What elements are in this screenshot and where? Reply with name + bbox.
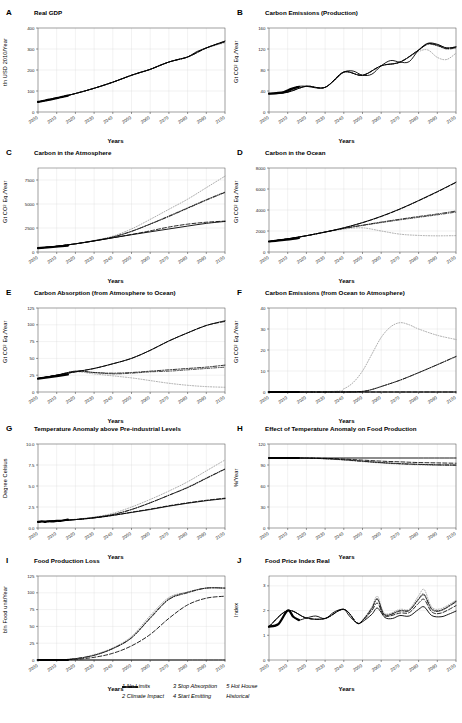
- svg-text:2060: 2060: [371, 531, 382, 541]
- svg-text:2070: 2070: [389, 395, 400, 405]
- svg-text:80: 80: [261, 68, 266, 73]
- svg-text:2100: 2100: [446, 663, 457, 673]
- panel-g: GTemperature Anomaly above Pre-industria…: [0, 424, 231, 563]
- legend-item-stop-absorption: 3 Stop Absorption: [173, 683, 217, 689]
- svg-text:2.5: 2.5: [28, 505, 35, 510]
- panel-b: BCarbon Emissions (Production)Gt CO2 Eq.…: [231, 8, 462, 147]
- x-axis-label-c: Years: [0, 278, 231, 284]
- svg-text:30: 30: [261, 505, 266, 510]
- svg-text:2080: 2080: [408, 395, 419, 405]
- svg-text:2040: 2040: [333, 115, 344, 125]
- svg-text:2000: 2000: [259, 531, 270, 541]
- svg-text:2090: 2090: [196, 115, 207, 125]
- svg-text:2000: 2000: [259, 255, 270, 265]
- svg-text:2030: 2030: [84, 395, 95, 405]
- svg-text:2090: 2090: [196, 395, 207, 405]
- plot-a: 0100200300400200020102020203020402050206…: [0, 8, 231, 147]
- svg-text:2020: 2020: [296, 663, 307, 673]
- svg-text:2070: 2070: [158, 663, 169, 673]
- svg-text:2070: 2070: [389, 663, 400, 673]
- figure-legend: 1 No Limits3 Stop Absorption5 Hot House2…: [0, 683, 462, 719]
- svg-text:2000: 2000: [256, 229, 266, 234]
- svg-text:2030: 2030: [315, 531, 326, 541]
- svg-text:50: 50: [30, 624, 35, 629]
- svg-text:2500: 2500: [25, 226, 35, 231]
- svg-text:160: 160: [258, 26, 266, 31]
- svg-text:2070: 2070: [389, 255, 400, 265]
- plot-g: 0.02.55.07.510.0200020102020203020402050…: [0, 424, 231, 563]
- plot-e: 0255075100125200020102020203020402050206…: [0, 288, 231, 427]
- legend-grid: 1 No Limits3 Stop Absorption5 Hot House2…: [122, 683, 257, 699]
- svg-text:2070: 2070: [158, 395, 169, 405]
- svg-text:2080: 2080: [408, 531, 419, 541]
- plot-i: 0255075100125200020102020203020402050206…: [0, 556, 231, 695]
- svg-text:100: 100: [27, 590, 35, 595]
- svg-text:2040: 2040: [102, 115, 113, 125]
- svg-text:7.5: 7.5: [28, 463, 35, 468]
- svg-text:2050: 2050: [121, 663, 132, 673]
- svg-text:2000: 2000: [28, 663, 39, 673]
- legend-label: 5 Hot House: [226, 683, 257, 689]
- svg-text:3: 3: [263, 583, 266, 588]
- svg-text:0: 0: [32, 250, 35, 255]
- svg-text:2040: 2040: [102, 531, 113, 541]
- svg-text:2050: 2050: [352, 663, 363, 673]
- panel-i: IFood Production Lossbln Food unit/Year0…: [0, 556, 231, 695]
- svg-text:30: 30: [261, 327, 266, 332]
- svg-text:2030: 2030: [315, 663, 326, 673]
- plot-j: 0123200020102020203020402050206020702080…: [231, 556, 462, 695]
- svg-text:2000: 2000: [28, 115, 39, 125]
- svg-text:2040: 2040: [333, 395, 344, 405]
- svg-text:2070: 2070: [389, 531, 400, 541]
- svg-text:2030: 2030: [84, 255, 95, 265]
- svg-text:2020: 2020: [65, 663, 76, 673]
- svg-text:2070: 2070: [158, 255, 169, 265]
- svg-text:2010: 2010: [277, 255, 288, 265]
- svg-text:2020: 2020: [296, 255, 307, 265]
- x-axis-label-a: Years: [0, 138, 231, 144]
- svg-text:2040: 2040: [333, 255, 344, 265]
- svg-text:2010: 2010: [46, 395, 57, 405]
- svg-text:2030: 2030: [315, 115, 326, 125]
- panel-h: HEffect of Temperature Anomaly on Food P…: [231, 424, 462, 563]
- svg-text:2030: 2030: [84, 663, 95, 673]
- svg-text:2010: 2010: [46, 663, 57, 673]
- svg-text:2000: 2000: [259, 115, 270, 125]
- svg-text:2070: 2070: [158, 531, 169, 541]
- svg-text:2030: 2030: [84, 115, 95, 125]
- x-axis-label-b: Years: [231, 138, 462, 144]
- svg-text:7500: 7500: [25, 178, 35, 183]
- svg-text:50: 50: [30, 356, 35, 361]
- svg-text:2010: 2010: [277, 395, 288, 405]
- panel-f: FCarbon Emissions (from Ocean to Atmosph…: [231, 288, 462, 427]
- svg-text:2020: 2020: [65, 395, 76, 405]
- svg-text:2040: 2040: [333, 531, 344, 541]
- plot-b: 0408012016020002010202020302040205020602…: [231, 8, 462, 147]
- svg-text:2100: 2100: [446, 395, 457, 405]
- panel-j: JFood Price Index RealIndex0123200020102…: [231, 556, 462, 695]
- x-axis-label-d: Years: [231, 278, 462, 284]
- svg-text:2060: 2060: [371, 395, 382, 405]
- svg-text:2090: 2090: [427, 395, 438, 405]
- svg-text:40: 40: [261, 89, 266, 94]
- plot-f: 0102030402000201020202030204020502060207…: [231, 288, 462, 427]
- svg-text:75: 75: [30, 339, 35, 344]
- svg-text:4000: 4000: [256, 208, 266, 213]
- svg-text:300: 300: [27, 47, 35, 52]
- svg-text:2080: 2080: [177, 663, 188, 673]
- svg-text:2030: 2030: [315, 255, 326, 265]
- svg-text:125: 125: [27, 574, 35, 579]
- svg-text:10.0: 10.0: [26, 442, 35, 447]
- svg-text:2090: 2090: [427, 255, 438, 265]
- svg-text:0: 0: [263, 526, 266, 531]
- svg-text:2090: 2090: [196, 663, 207, 673]
- svg-text:2000: 2000: [28, 255, 39, 265]
- svg-text:2000: 2000: [28, 395, 39, 405]
- svg-text:2100: 2100: [215, 663, 226, 673]
- svg-text:2010: 2010: [46, 531, 57, 541]
- svg-text:2060: 2060: [140, 663, 151, 673]
- svg-text:120: 120: [258, 442, 266, 447]
- legend-label: 2 Climate Impact: [122, 693, 164, 699]
- svg-text:2060: 2060: [371, 255, 382, 265]
- svg-text:120: 120: [258, 47, 266, 52]
